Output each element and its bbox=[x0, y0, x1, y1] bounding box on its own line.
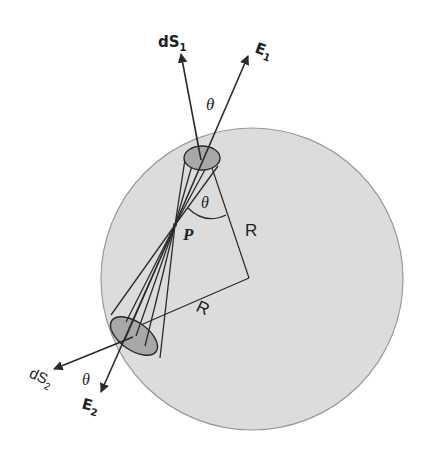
flux-sphere-diagram: dS1 E1 θ θ P R R θ dS2 E2 bbox=[0, 0, 422, 450]
label-dS2: dS2 bbox=[26, 364, 57, 392]
label-theta-bottom: θ bbox=[82, 371, 90, 388]
point-P bbox=[173, 223, 177, 227]
label-dS1: dS1 bbox=[158, 33, 187, 53]
cap-dS1 bbox=[184, 146, 220, 170]
label-E2: E2 bbox=[79, 395, 101, 419]
label-E1: E1 bbox=[252, 39, 275, 64]
label-theta-center: θ bbox=[201, 194, 209, 211]
label-P: P bbox=[182, 225, 194, 244]
label-theta-top: θ bbox=[206, 95, 214, 114]
label-R-upper: R bbox=[245, 221, 257, 240]
sphere bbox=[101, 128, 403, 430]
